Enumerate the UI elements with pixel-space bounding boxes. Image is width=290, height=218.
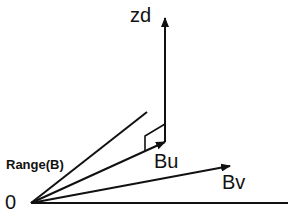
diagram-canvas: zd Range(B) Bu Bv 0 [0, 0, 290, 218]
range-b-label: Range(B) [6, 158, 64, 171]
bu-label: Bu [154, 151, 178, 171]
vector-diagram [0, 0, 290, 218]
origin-label: 0 [5, 192, 16, 212]
zd-label: zd [130, 5, 151, 25]
bv-label: Bv [222, 172, 245, 192]
